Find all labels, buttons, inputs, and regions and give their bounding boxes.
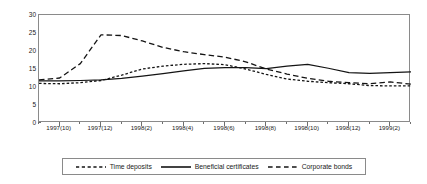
x-tick-mark-minor bbox=[79, 122, 80, 124]
legend-label: Beneficial certificates bbox=[195, 162, 259, 171]
x-tick-label: 1998(2) bbox=[131, 124, 152, 132]
legend-item-beneficial-certificates[interactable]: Beneficial certificates bbox=[161, 162, 259, 171]
x-tick-mark-minor bbox=[369, 122, 370, 124]
x-tick-mark-minor bbox=[327, 122, 328, 124]
x-tick-mark-minor bbox=[203, 122, 204, 124]
x-tick-mark-minor bbox=[286, 122, 287, 124]
legend-swatch-solid bbox=[161, 165, 191, 168]
x-tick-label: 1998(12) bbox=[336, 124, 361, 132]
x-tick-label: 1998(10) bbox=[294, 124, 319, 132]
legend-swatch-dashed bbox=[268, 165, 298, 168]
x-tick-mark-minor bbox=[162, 122, 163, 124]
x-tick-mark-minor bbox=[38, 122, 39, 124]
x-tick-mark-minor bbox=[245, 122, 246, 124]
legend-swatch-dotted bbox=[76, 165, 106, 168]
x-tick-label: 1998(4) bbox=[172, 124, 193, 132]
x-tick-label: 1998(6) bbox=[213, 124, 234, 132]
legend-item-time-deposits[interactable]: Time deposits bbox=[76, 162, 152, 171]
x-tick-mark-minor bbox=[121, 122, 122, 124]
legend-label: Corporate bonds bbox=[302, 162, 353, 171]
chart-figure: 051015202530 1997(10)1997(12)1998(2)1998… bbox=[0, 0, 427, 184]
x-tick-label: 1997(12) bbox=[88, 124, 113, 132]
x-tick-label: 1997(10) bbox=[46, 124, 71, 132]
x-tick-label: 1998(8) bbox=[255, 124, 276, 132]
legend-label: Time deposits bbox=[110, 162, 152, 171]
chart-legend: Time depositsBeneficial certificatesCorp… bbox=[62, 158, 366, 175]
x-axis: 1997(10)1997(12)1998(2)1998(4)1998(6)199… bbox=[0, 0, 427, 184]
x-tick-label: 1999(2) bbox=[379, 124, 400, 132]
legend-item-corporate-bonds[interactable]: Corporate bonds bbox=[268, 162, 353, 171]
x-tick-mark-minor bbox=[410, 122, 411, 124]
